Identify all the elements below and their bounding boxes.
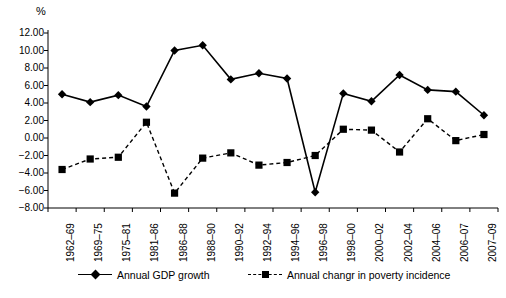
data-point-marker [424, 115, 431, 122]
data-point-marker [114, 91, 122, 99]
data-point-marker [227, 149, 234, 156]
data-point-marker [255, 69, 263, 77]
x-axis-tick-label: 1962–69 [66, 223, 76, 262]
data-point-marker [171, 190, 178, 197]
x-axis-tick-label: 1981–86 [150, 223, 160, 262]
data-point-marker [143, 119, 150, 126]
x-axis-tick-label: 2007–09 [488, 223, 498, 262]
data-point-marker [87, 155, 94, 162]
x-axis-tick-label: 1994–96 [291, 223, 301, 262]
data-point-marker [58, 166, 65, 173]
x-axis-tick-label: 1998–00 [347, 223, 357, 262]
x-axis-tick-label: 2006–07 [460, 223, 470, 262]
data-point-marker [283, 159, 290, 166]
data-point-marker [339, 89, 347, 97]
x-axis-tick-label: 1992–94 [263, 223, 273, 262]
series-gdp-growth [58, 41, 488, 196]
x-axis-tick-labels: 1962–691969–751975–811981–861986–881988–… [0, 210, 506, 268]
data-point-marker [311, 188, 319, 196]
x-axis-tick-label: 1986–88 [179, 223, 189, 262]
data-point-marker [396, 148, 403, 155]
data-point-marker [312, 152, 319, 159]
data-point-marker [115, 154, 122, 161]
x-axis-tick-label: 2004–06 [432, 223, 442, 262]
y-axis-ticks [44, 33, 48, 208]
data-point-marker [480, 131, 487, 138]
legend-entry-poverty: Annual changr in poverty incidence [248, 269, 450, 281]
data-point-marker [368, 127, 375, 134]
data-point-marker [452, 137, 459, 144]
data-point-marker [58, 90, 66, 98]
x-axis-tick-label: 2000–02 [375, 223, 385, 262]
legend-label-poverty: Annual changr in poverty incidence [287, 269, 450, 281]
series-line [62, 45, 484, 192]
data-point-marker [142, 102, 150, 110]
x-axis-tick-label: 1969–75 [94, 223, 104, 262]
x-axis-tick-label: 1990–92 [235, 223, 245, 262]
x-axis-tick-label: 1996–98 [319, 223, 329, 262]
x-axis-tick-label: 2002–04 [404, 223, 414, 262]
data-point-marker [283, 74, 291, 82]
data-point-marker [199, 155, 206, 162]
data-point-marker [340, 126, 347, 133]
legend-label-gdp: Annual GDP growth [117, 269, 210, 281]
legend-entry-gdp: Annual GDP growth [78, 269, 210, 281]
legend-swatch-diamond-icon [78, 269, 112, 281]
line-chart: % 12.0010.008.006.004.002.000.00−2.00−4.… [0, 0, 506, 298]
legend-swatch-square-icon [248, 269, 282, 281]
series-poverty-incidence [58, 115, 487, 197]
x-axis-tick-label: 1975–81 [122, 223, 132, 262]
data-point-marker [423, 86, 431, 94]
data-point-marker [255, 162, 262, 169]
chart-legend: Annual GDP growth Annual changr in pover… [0, 266, 506, 290]
data-point-marker [170, 46, 178, 54]
series-line [62, 119, 484, 193]
x-axis-tick-label: 1988–90 [207, 223, 217, 262]
data-series-layer [58, 41, 488, 197]
data-point-marker [86, 98, 94, 106]
